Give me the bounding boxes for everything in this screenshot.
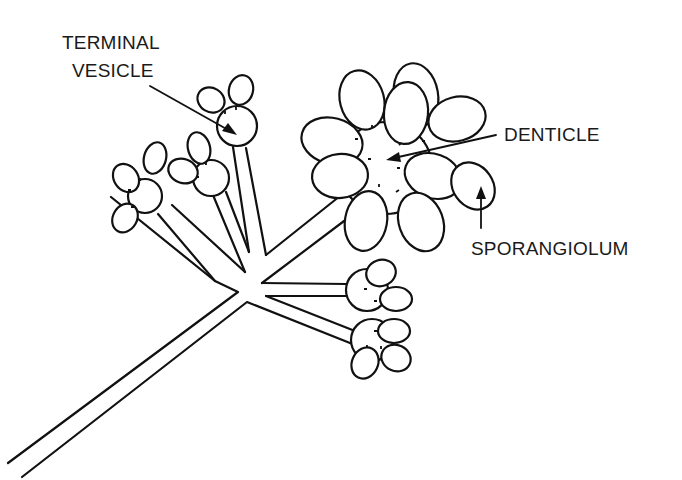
sporangiophore-diagram: TERMINAL VESICLE DENTICLE SPORANGIOLUM (0, 0, 682, 480)
label-denticle: DENTICLE (504, 124, 600, 145)
label-sporangiolum: SPORANGIOLUM (471, 238, 629, 259)
main-stalk (8, 197, 355, 477)
label-terminal: TERMINAL (62, 32, 160, 53)
label-vesicle: VESICLE (72, 60, 154, 81)
vesicle-cluster-middle (165, 130, 229, 196)
branches-lower-right (262, 283, 355, 331)
vesicle-cluster-lower-upper (346, 256, 412, 311)
vesicle-cluster-left (107, 140, 170, 237)
vesicle-cluster-lower-lower (346, 319, 415, 383)
